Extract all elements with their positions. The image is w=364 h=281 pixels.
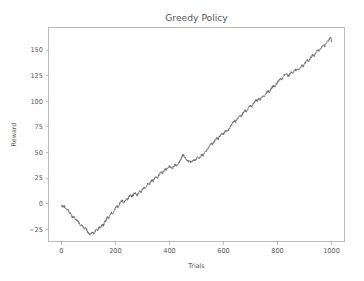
x-tick-label: 0 (59, 247, 63, 255)
figure-canvas: Greedy Policy −250255075100125150 020040… (0, 0, 364, 281)
x-tick-label: 400 (163, 247, 176, 255)
x-axis-label: Trials (187, 262, 205, 270)
x-tick-label: 1000 (323, 247, 340, 255)
y-tick-label: −25 (29, 226, 43, 234)
y-tick-label: 75 (35, 123, 43, 131)
chart-title: Greedy Policy (165, 12, 228, 23)
figure-background (0, 0, 364, 281)
greedy-policy-line-chart: Greedy Policy −250255075100125150 020040… (0, 0, 364, 281)
y-tick-label: 25 (35, 174, 43, 182)
x-tick-label: 200 (109, 247, 122, 255)
y-tick-label: 0 (39, 200, 43, 208)
x-tick-label: 600 (217, 247, 230, 255)
y-axis-label: Reward (10, 123, 18, 147)
y-tick-label: 100 (30, 98, 43, 106)
y-tick-label: 150 (30, 46, 43, 54)
y-tick-label: 50 (35, 149, 43, 157)
x-tick-label: 800 (271, 247, 284, 255)
y-tick-label: 125 (30, 72, 43, 80)
